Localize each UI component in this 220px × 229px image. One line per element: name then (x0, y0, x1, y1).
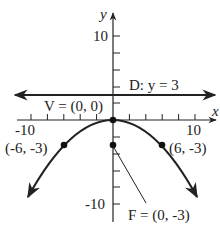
x-tick-label-10: 10 (186, 122, 201, 138)
y-tick-label-10: 10 (93, 28, 108, 44)
point-neg6-neg3 (61, 142, 68, 149)
y-tick-label-neg10: -10 (85, 196, 105, 212)
y-axis-label: y (98, 6, 107, 22)
point-6-neg3 (159, 142, 166, 149)
graph-canvas: y x 10 -10 -10 10 D: y = 3 V = (0, 0) (-… (0, 0, 220, 229)
focus-point (110, 142, 117, 149)
vertex-label: V = (0, 0) (44, 98, 103, 115)
vertex-point (110, 117, 117, 124)
x-tick-label-neg10: -10 (15, 122, 35, 138)
point-6-neg3-label: (6, -3) (169, 140, 207, 157)
focus-label: F = (0, -3) (128, 207, 190, 224)
point-neg6-neg3-label: (-6, -3) (5, 140, 47, 157)
parabola-figure: y x 10 -10 -10 10 D: y = 3 V = (0, 0) (-… (0, 0, 220, 229)
directrix-label: D: y = 3 (129, 77, 179, 93)
focus-leader-line (113, 146, 146, 203)
x-axis-label: x (211, 103, 219, 119)
